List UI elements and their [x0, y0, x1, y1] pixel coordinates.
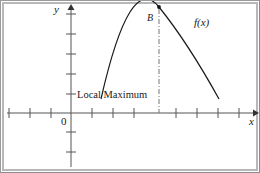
vertex-point-marker — [157, 5, 161, 9]
y-axis-arrowhead — [68, 4, 75, 10]
local-maximum-annotation: Local Maximum — [77, 90, 147, 101]
function-label: f(x) — [194, 17, 209, 28]
vertex-point-label: B — [147, 13, 153, 23]
y-axis-label: y — [54, 4, 59, 15]
origin-label: 0 — [61, 116, 67, 127]
figure-container: y x 0 B f(x) Local Maximum — [0, 0, 260, 173]
x-axis-label: x — [249, 116, 254, 127]
graph-canvas — [1, 1, 260, 173]
